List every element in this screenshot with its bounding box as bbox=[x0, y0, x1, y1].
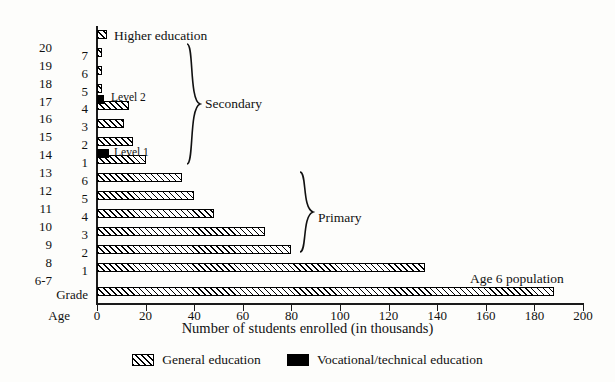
age-label: 8 bbox=[14, 256, 52, 269]
general-education-swatch-icon bbox=[132, 354, 154, 366]
legend-item-general: General education bbox=[132, 352, 261, 368]
secondary-brace bbox=[183, 42, 205, 166]
age-label: 6-7 bbox=[14, 274, 52, 287]
grade-label: 4 bbox=[48, 210, 88, 223]
grade-label: 3 bbox=[48, 228, 88, 241]
age-label: 9 bbox=[14, 238, 52, 251]
primary-brace bbox=[296, 170, 318, 254]
higher-education-label: Higher education bbox=[114, 29, 207, 43]
grade-label: 1 bbox=[48, 264, 88, 277]
legend-label-vocational: Vocational/technical education bbox=[317, 352, 483, 368]
grade-label: Grade bbox=[48, 288, 88, 301]
grade-label: 7 bbox=[48, 49, 88, 62]
vocational-education-swatch-icon bbox=[287, 354, 309, 366]
bar-general bbox=[97, 287, 554, 296]
bar-general bbox=[97, 84, 102, 93]
level-2-label: Level 2 bbox=[111, 91, 146, 103]
bar-general bbox=[97, 137, 133, 146]
chart-legend: General education Vocational/technical e… bbox=[0, 352, 615, 368]
bar-general bbox=[97, 191, 194, 200]
age-label: 13 bbox=[14, 166, 52, 179]
bar-general bbox=[97, 173, 182, 182]
bar-general bbox=[97, 66, 102, 75]
age-label: 19 bbox=[14, 59, 52, 72]
age-label: 14 bbox=[14, 148, 52, 161]
bar-vocational bbox=[97, 149, 109, 158]
bar-vocational bbox=[97, 95, 104, 104]
x-axis-title: Number of students enrolled (in thousand… bbox=[0, 320, 615, 337]
bar-general bbox=[97, 263, 425, 272]
bar-general bbox=[97, 227, 265, 236]
grade-label: 2 bbox=[48, 138, 88, 151]
grade-label: 5 bbox=[48, 85, 88, 98]
age-label: 12 bbox=[14, 184, 52, 197]
age-label: 11 bbox=[14, 202, 52, 215]
grade-label: 6 bbox=[48, 67, 88, 80]
bar-general bbox=[97, 48, 102, 57]
grade-label: 1 bbox=[48, 156, 88, 169]
primary-bracket-label: Primary bbox=[318, 211, 362, 225]
bar-general bbox=[97, 119, 124, 128]
legend-label-general: General education bbox=[162, 352, 261, 368]
age-label: 20 bbox=[14, 41, 52, 54]
grade-label: 2 bbox=[48, 246, 88, 259]
grade-label: 5 bbox=[48, 192, 88, 205]
legend-item-vocational: Vocational/technical education bbox=[287, 352, 483, 368]
age-6-population-label: Age 6 population bbox=[470, 272, 564, 286]
bar-general bbox=[97, 245, 291, 254]
secondary-bracket-label: Secondary bbox=[205, 97, 262, 111]
grade-label: 6 bbox=[48, 174, 88, 187]
level-1-label: Level 1 bbox=[114, 146, 149, 158]
grade-label: 3 bbox=[48, 120, 88, 133]
bar-chart: 020406080100120140160180200 201918171615… bbox=[0, 0, 615, 382]
age-label: 18 bbox=[14, 77, 52, 90]
grade-label: 4 bbox=[48, 102, 88, 115]
age-label: 16 bbox=[14, 112, 52, 125]
age-label: 10 bbox=[14, 220, 52, 233]
age-label: 17 bbox=[14, 95, 52, 108]
bar-general bbox=[97, 209, 214, 218]
age-label: 15 bbox=[14, 130, 52, 143]
bar-general bbox=[97, 30, 107, 39]
